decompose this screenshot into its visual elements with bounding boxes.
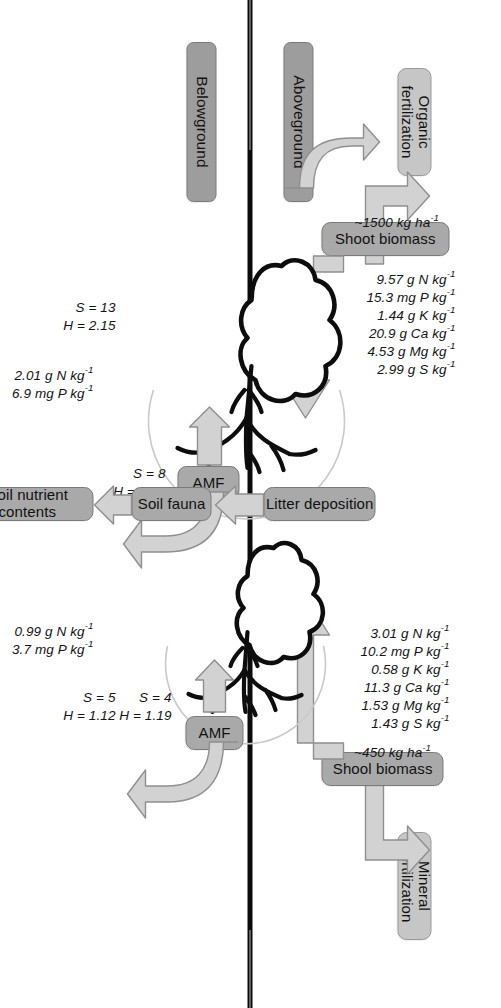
- node-amf-mineral-label: AMF: [198, 725, 230, 742]
- shoot-nutrient-organic-2-text: 1.44 g K kg-1: [377, 308, 455, 323]
- shoot-biomass-amount-organic-text: ~1500 kg ha-1: [354, 215, 439, 230]
- shoot-nutrient-organic-5-text: 2.99 g S kg-1: [377, 362, 455, 377]
- arrow-amf-organic-to-plant: [189, 405, 229, 467]
- shoot-nutrient-mineral-2-text: 0.58 g K kg-1: [371, 662, 449, 677]
- shoot-nutrient-organic-1-text: 15.3 mg P kg-1: [366, 290, 455, 305]
- shoot-nutrient-organic-2: 1.44 g K kg-1: [377, 304, 455, 323]
- tier-hairline-right: [249, 930, 250, 1008]
- shoot-biomass-amount-mineral-text: ~450 kg ha-1: [354, 745, 431, 760]
- soil-nutrient-mineral-P: 3.7 mg P kg-1: [12, 638, 93, 657]
- amf-organic-stat-S-text: S = 8: [133, 466, 165, 481]
- amf-mineral-stat-H: H = 1.19: [119, 708, 171, 724]
- shoot-nutrient-organic-3: 20.9 g Ca kg-1: [368, 322, 455, 341]
- shoot-nutrient-mineral-2: 0.58 g K kg-1: [371, 658, 449, 677]
- shoot-nutrient-mineral-4: 1.53 g Mg kg-1: [361, 694, 449, 713]
- plant-illustration-mineral: [157, 520, 333, 730]
- shoot-nutrient-mineral-0: 3.01 g N kg-1: [370, 622, 449, 641]
- shoot-nutrient-mineral-1: 10.2 mg P kg-1: [360, 640, 449, 659]
- amf-organic-stat-S: S = 8: [133, 466, 165, 482]
- tier-hairline-left: [249, 0, 250, 150]
- soil-fauna-organic-stat-S-text: S = 13: [75, 300, 115, 315]
- amf-mineral-stat-S: S = 4: [139, 690, 171, 706]
- node-litter-deposition-label: Litter deposition: [265, 496, 373, 513]
- node-soil-nutrient-contents[interactable]: Soil nutrient contents: [0, 487, 93, 521]
- soil-fauna-mineral-stat-S-text: S = 5: [83, 690, 115, 705]
- tier-label-belowground-text: Belowground: [192, 76, 209, 168]
- soil-nutrient-organic-P-text: 6.9 mg P kg-1: [12, 386, 93, 401]
- shoot-nutrient-organic-3-text: 20.9 g Ca kg-1: [368, 326, 455, 341]
- plant-illustration-organic: [141, 240, 351, 490]
- soil-nutrient-organic-N: 2.01 g N kg-1: [14, 364, 93, 383]
- shoot-nutrient-mineral-5-text: 1.43 g S kg-1: [371, 716, 449, 731]
- shoot-biomass-amount-mineral: ~450 kg ha-1: [339, 726, 431, 777]
- tier-label-belowground: Belowground: [186, 42, 216, 202]
- conceptual-diagram: Aboveground Belowground Organic fertiliz…: [0, 0, 501, 1008]
- arrow-microbial-mineral-to-amf: [125, 742, 251, 820]
- soil-fauna-mineral-stat-H: H = 1.12: [63, 708, 115, 724]
- treatment-box-organic[interactable]: Organic fertilization: [397, 68, 431, 176]
- amf-mineral-stat-H-text: H = 1.19: [119, 708, 171, 723]
- arrow-amf-mineral-to-plant: [195, 658, 233, 714]
- soil-fauna-mineral-stat-H-text: H = 1.12: [63, 708, 115, 723]
- soil-nutrient-organic-P: 6.9 mg P kg-1: [12, 382, 93, 401]
- node-soil-nutrient-contents-label: Soil nutrient contents: [0, 487, 92, 521]
- arrow-soil-to-shoot-organic: [271, 120, 381, 190]
- node-litter-deposition[interactable]: Litter deposition: [263, 487, 375, 521]
- soil-fauna-organic-stat-S: S = 13: [75, 300, 115, 316]
- shoot-nutrient-mineral-5: 1.43 g S kg-1: [371, 712, 449, 731]
- shoot-nutrient-organic-1: 15.3 mg P kg-1: [366, 286, 455, 305]
- soil-nutrient-organic-N-text: 2.01 g N kg-1: [14, 368, 93, 383]
- arrow-soil-fauna-to-nutrients: [93, 486, 131, 524]
- shoot-biomass-amount-organic: ~1500 kg ha-1: [339, 196, 439, 247]
- shoot-nutrient-organic-0-text: 9.57 g N kg-1: [376, 272, 455, 287]
- shoot-nutrient-organic-4-text: 4.53 g Mg kg-1: [367, 344, 455, 359]
- soil-nutrient-mineral-P-text: 3.7 mg P kg-1: [12, 642, 93, 657]
- node-soil-fauna-label: Soil fauna: [137, 496, 205, 513]
- shoot-nutrient-organic-5: 2.99 g S kg-1: [377, 358, 455, 377]
- shoot-nutrient-mineral-4-text: 1.53 g Mg kg-1: [361, 698, 449, 713]
- soil-fauna-mineral-stat-S: S = 5: [83, 690, 115, 706]
- shoot-nutrient-organic-4: 4.53 g Mg kg-1: [367, 340, 455, 359]
- soil-fauna-organic-stat-H: H = 2.15: [63, 318, 115, 334]
- amf-mineral-stat-S-text: S = 4: [139, 690, 171, 705]
- shoot-nutrient-mineral-0-text: 3.01 g N kg-1: [370, 626, 449, 641]
- soil-nutrient-mineral-N-text: 0.99 g N kg-1: [14, 624, 93, 639]
- arrow-litter-to-soil-fauna: [213, 486, 263, 524]
- shoot-nutrient-mineral-3-text: 11.3 g Ca kg-1: [363, 680, 449, 695]
- node-soil-fauna[interactable]: Soil fauna: [131, 487, 211, 521]
- treatment-label-organic: Organic fertilization: [397, 69, 431, 175]
- shoot-nutrient-mineral-1-text: 10.2 mg P kg-1: [360, 644, 449, 659]
- shoot-nutrient-mineral-3: 11.3 g Ca kg-1: [363, 676, 449, 695]
- soil-fauna-organic-stat-H-text: H = 2.15: [63, 318, 115, 333]
- soil-nutrient-mineral-N: 0.99 g N kg-1: [14, 620, 93, 639]
- shoot-nutrient-organic-0: 9.57 g N kg-1: [376, 268, 455, 287]
- rotated-figure-wrapper: Aboveground Belowground Organic fertiliz…: [0, 0, 501, 1008]
